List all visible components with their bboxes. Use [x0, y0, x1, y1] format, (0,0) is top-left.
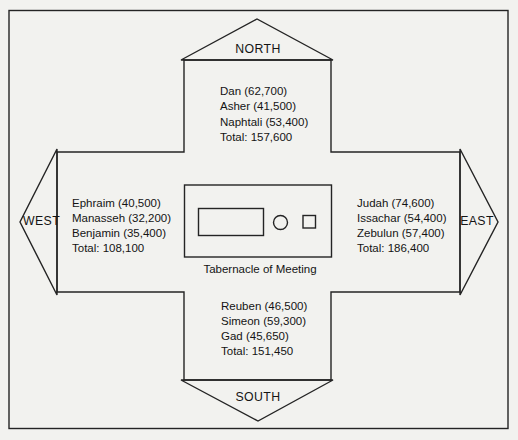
camp-west-total: Total: 108,100 [72, 242, 144, 254]
circle-shape [274, 216, 288, 230]
compass-north-label: NORTH [235, 42, 281, 56]
camp-west-tribe-3: Benjamin (35,400) [72, 227, 166, 239]
camp-south-tribe-3: Gad (45,650) [221, 330, 289, 342]
tabernacle-label: Tabernacle of Meeting [203, 263, 316, 275]
camp-north-tribe-2: Asher (41,500) [220, 100, 296, 112]
tribal-camp-diagram: NORTH SOUTH WEST EAST Dan (62,700) Asher… [0, 0, 518, 440]
camp-west-tribe-1: Ephraim (40,500) [72, 197, 161, 209]
camp-south-total: Total: 151,450 [221, 345, 293, 357]
camp-east-tribe-2: Issachar (54,400) [357, 212, 447, 224]
camp-south-tribe-2: Simeon (59,300) [221, 315, 306, 327]
camp-north-total: Total: 157,600 [220, 131, 292, 143]
camp-east-total: Total: 186,400 [357, 242, 429, 254]
compass-south-label: SOUTH [235, 390, 280, 404]
camp-east-tribe-3: Zebulun (57,400) [357, 227, 445, 239]
camp-north-tribe-3: Naphtali (53,400) [220, 116, 308, 128]
tabernacle-courtyard [185, 185, 332, 257]
compass-west-label: WEST [23, 214, 60, 228]
camp-east-tribe-1: Judah (74,600) [357, 197, 435, 209]
compass-east-label: EAST [460, 214, 494, 228]
camp-west-tribe-2: Manasseh (32,200) [72, 212, 171, 224]
camp-south-tribe-1: Reuben (46,500) [221, 300, 307, 312]
inner-rectangle-shape [199, 209, 264, 236]
camp-north-tribe-1: Dan (62,700) [220, 85, 287, 97]
square-shape [303, 216, 316, 229]
